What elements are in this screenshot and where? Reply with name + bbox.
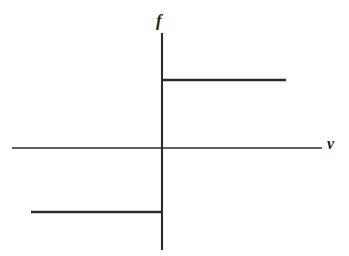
plot-background [0, 0, 349, 256]
figure-container: f v [0, 0, 349, 256]
vertical-axis-label: f [156, 12, 162, 29]
horizontal-axis-label: v [327, 136, 334, 152]
signum-function-plot [0, 0, 349, 256]
